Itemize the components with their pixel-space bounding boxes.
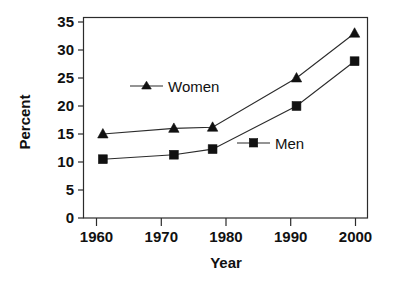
y-tick-label-35: 35 <box>57 13 74 30</box>
x-tick-label-2000: 2000 <box>339 228 372 245</box>
y-tick-label-5: 5 <box>66 181 74 198</box>
y-tick-label-20: 20 <box>57 97 74 114</box>
legend-men-label: Men <box>275 135 304 152</box>
square-icon <box>208 145 217 154</box>
x-tick-label-1970: 1970 <box>145 228 178 245</box>
y-tick-label-30: 30 <box>57 41 74 58</box>
y-axis-title: Percent <box>16 94 33 149</box>
x-tick-label-1990: 1990 <box>274 228 307 245</box>
square-icon <box>292 102 301 111</box>
x-axis-title: Year <box>210 254 242 271</box>
y-tick-label-0: 0 <box>66 209 74 226</box>
y-tick-label-10: 10 <box>57 153 74 170</box>
legend-women-label: Women <box>168 78 219 95</box>
square-icon <box>249 139 257 147</box>
line-chart: 0 5 10 15 20 25 30 35 1960 1970 1980 199… <box>0 0 394 282</box>
x-tick-label-1960: 1960 <box>80 228 113 245</box>
chart-figure: 0 5 10 15 20 25 30 35 1960 1970 1980 199… <box>0 0 394 282</box>
y-tick-label-15: 15 <box>57 125 74 142</box>
square-icon <box>98 155 107 164</box>
square-icon <box>169 150 178 159</box>
y-tick-label-25: 25 <box>57 69 74 86</box>
square-icon <box>350 57 359 66</box>
x-tick-label-1980: 1980 <box>209 228 242 245</box>
